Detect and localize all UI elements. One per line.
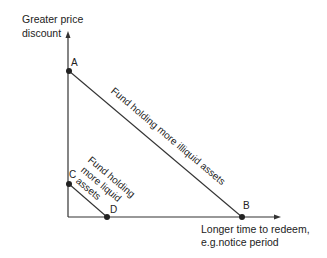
point-b-label: B [243,200,250,211]
point-a-label: A [71,57,78,68]
y-axis-arrow-icon [66,31,71,38]
point-a [66,68,72,74]
x-axis-label-line1: Longer time to redeem, [201,223,310,236]
point-b [239,214,245,220]
x-axis-arrow-icon [274,215,281,220]
y-axis-label-line1: Greater price [22,13,83,26]
point-c [66,181,72,187]
point-c-label: C [69,169,76,180]
y-axis-label-line2: discount [22,27,61,40]
x-axis-label-line2: e.g.notice period [201,236,279,249]
point-d-label: D [110,204,117,215]
